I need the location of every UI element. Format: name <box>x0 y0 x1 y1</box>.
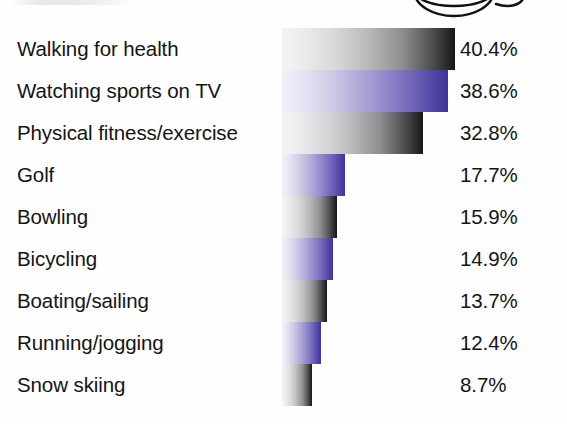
bar-label: Physical fitness/exercise <box>17 112 238 154</box>
bar-label: Boating/sailing <box>17 280 149 322</box>
bar-bowling <box>282 196 337 238</box>
chart-row: Walking for health 40.4% <box>0 28 567 70</box>
bar-track <box>282 364 312 406</box>
bar-value-label: 32.8% <box>460 112 518 154</box>
chart-row: Physical fitness/exercise 32.8% <box>0 112 567 154</box>
bar-label: Watching sports on TV <box>17 70 221 112</box>
chart-page: Walking for health 40.4% Watching sports… <box>0 0 567 424</box>
bar-label: Running/jogging <box>17 322 164 364</box>
bar-physical-fitness-exercise <box>282 112 423 154</box>
bar-golf <box>282 154 345 196</box>
chart-row: Snow skiing 8.7% <box>0 364 567 406</box>
bar-value-label: 17.7% <box>460 154 518 196</box>
bar-label: Bowling <box>17 196 88 238</box>
scan-smudge <box>10 0 130 5</box>
bar-track <box>282 154 345 196</box>
bar-snow-skiing <box>282 364 312 406</box>
cup-line-art-illustration <box>392 0 542 28</box>
bar-label: Golf <box>17 154 54 196</box>
bar-label: Walking for health <box>17 28 179 70</box>
bar-track <box>282 70 448 112</box>
bar-walking-for-health <box>282 28 455 70</box>
chart-row: Watching sports on TV 38.6% <box>0 70 567 112</box>
chart-row: Golf 17.7% <box>0 154 567 196</box>
bar-value-label: 38.6% <box>460 70 518 112</box>
chart-row: Bicycling 14.9% <box>0 238 567 280</box>
horizontal-bar-chart: Walking for health 40.4% Watching sports… <box>0 28 567 406</box>
bar-value-label: 12.4% <box>460 322 518 364</box>
bar-boating-sailing <box>282 280 327 322</box>
bar-value-label: 8.7% <box>460 364 506 406</box>
bar-value-label: 15.9% <box>460 196 518 238</box>
bar-track <box>282 322 321 364</box>
bar-value-label: 40.4% <box>460 28 518 70</box>
bar-watching-sports-on-tv <box>282 70 448 112</box>
chart-row: Bowling 15.9% <box>0 196 567 238</box>
chart-row: Boating/sailing 13.7% <box>0 280 567 322</box>
bar-running-jogging <box>282 322 321 364</box>
bar-label: Bicycling <box>17 238 97 280</box>
bar-track <box>282 196 337 238</box>
bar-label: Snow skiing <box>17 364 125 406</box>
bar-value-label: 13.7% <box>460 280 518 322</box>
bar-track <box>282 112 423 154</box>
bar-bicycling <box>282 238 333 280</box>
bar-track <box>282 280 327 322</box>
chart-row: Running/jogging 12.4% <box>0 322 567 364</box>
bar-track <box>282 238 333 280</box>
bar-value-label: 14.9% <box>460 238 518 280</box>
bar-track <box>282 28 455 70</box>
